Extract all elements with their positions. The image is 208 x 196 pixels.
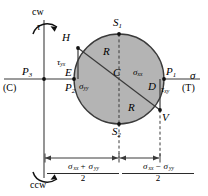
point-label-S1: S1 (113, 17, 122, 29)
point-label-P2: P2 (65, 82, 75, 94)
cw-arrowhead (51, 26, 58, 32)
point-dot-P3 (42, 77, 46, 81)
point-label-P1: P1 (166, 66, 176, 78)
cw-label: cw (32, 7, 44, 17)
tau-yx-label: τyx (57, 58, 65, 68)
tau-axis-label: τ (37, 22, 41, 32)
point-dot-H (76, 46, 80, 50)
point-label-S2: S2 (112, 126, 121, 138)
dimension-arrow-radius-left (120, 156, 126, 161)
ccw-label: ccw (30, 180, 46, 190)
point-dot-P2 (72, 77, 76, 81)
tension-label: (T) (182, 83, 195, 93)
point-label-H: H (62, 32, 70, 43)
tau-xy-label: τxy (161, 85, 169, 95)
point-label-D: D (148, 81, 156, 92)
dimension-label-radius-expression: σxx−σyy 2 (122, 162, 194, 183)
sigma-axis-label: σ (190, 70, 195, 81)
sigma-xx-label: σxx (133, 68, 142, 78)
dimension-arrow-radius-right (153, 156, 159, 161)
radius-label-upper: R (103, 46, 110, 57)
sigma-yy-label: σyy (79, 82, 88, 92)
dimension-arrow-mean-left (45, 156, 51, 161)
point-label-E: E (65, 67, 72, 78)
dimension-label-mean-stress: σxx+σyy 2 (47, 162, 119, 183)
compression-label: (C) (3, 83, 16, 93)
point-label-C: C (113, 67, 120, 78)
radius-label-lower: R (128, 102, 135, 113)
point-dot-S1 (117, 32, 121, 36)
point-label-P3: P3 (22, 66, 32, 78)
point-label-V: V (162, 112, 169, 123)
dimension-arrow-mean-right (112, 156, 118, 161)
